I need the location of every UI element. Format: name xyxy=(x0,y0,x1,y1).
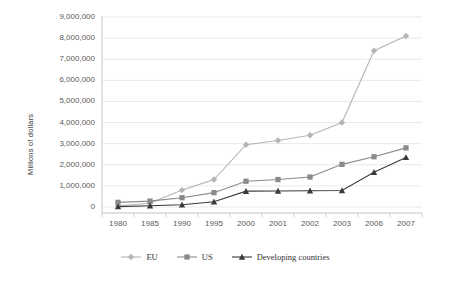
data-point-marker xyxy=(371,169,377,175)
legend-label: US xyxy=(202,252,213,262)
line-chart: Millions of dollars 9,000,0008,000,0007,… xyxy=(0,0,450,283)
series-line xyxy=(118,148,406,202)
legend-item[interactable]: Developing countries xyxy=(231,252,330,262)
legend-label: Developing countries xyxy=(257,252,330,262)
data-point-marker xyxy=(307,132,313,138)
data-point-marker xyxy=(179,195,184,200)
data-point-marker xyxy=(307,174,312,179)
legend-label: EU xyxy=(146,252,157,262)
chart-legend: EUUSDeveloping countries xyxy=(0,252,450,262)
data-point-marker xyxy=(339,119,345,125)
data-point-marker xyxy=(275,177,280,182)
y-axis-tick-label: 0 xyxy=(33,203,95,211)
data-point-marker xyxy=(371,154,376,159)
data-point-marker xyxy=(179,187,185,193)
data-point-marker xyxy=(128,254,134,260)
data-point-marker xyxy=(275,137,281,143)
data-point-marker xyxy=(371,48,377,54)
y-axis-tick-label: 9,000,000 xyxy=(33,13,95,21)
y-axis-tick-label: 3,000,000 xyxy=(33,140,95,148)
legend-marker-triangle-icon xyxy=(231,252,253,262)
data-point-marker xyxy=(339,162,344,167)
data-point-marker xyxy=(403,154,409,160)
y-axis-tick-label: 1,000,000 xyxy=(33,182,95,190)
legend-marker-diamond-icon xyxy=(120,252,142,262)
y-axis-tick-label: 7,000,000 xyxy=(33,55,95,63)
data-point-marker xyxy=(211,190,216,195)
data-point-marker xyxy=(184,254,189,259)
y-axis-tick-label: 2,000,000 xyxy=(33,161,95,169)
x-axis-tick-label: 2007 xyxy=(386,220,426,228)
y-axis-tick-label: 5,000,000 xyxy=(33,97,95,105)
data-point-marker xyxy=(243,179,248,184)
legend-item[interactable]: EU xyxy=(120,252,157,262)
y-axis-tick-label: 8,000,000 xyxy=(33,34,95,42)
legend-item[interactable]: US xyxy=(176,252,213,262)
y-axis-tick-label: 6,000,000 xyxy=(33,76,95,84)
legend-marker-square-icon xyxy=(176,252,198,262)
y-axis-tick-label: 4,000,000 xyxy=(33,119,95,127)
data-point-marker xyxy=(403,145,408,150)
